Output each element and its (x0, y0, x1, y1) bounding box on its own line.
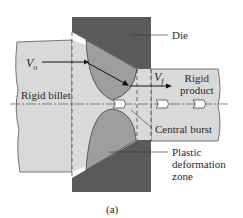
rigid-billet-label: Rigid billet (21, 89, 71, 101)
extrusion-diagram: Die Vo Vf Rigid product Rigid billet Cen… (0, 0, 243, 218)
rigid-product-line1: Rigid (180, 72, 214, 84)
plastic-line1: Plastic (172, 146, 226, 158)
rigid-product-label: Rigid product (180, 72, 214, 96)
v-f-sub: f (161, 77, 163, 86)
plastic-line2: deformation (172, 158, 226, 170)
central-burst-label: Central burst (155, 123, 212, 135)
central-burst-1 (113, 100, 126, 108)
rigid-product-line2: product (180, 84, 214, 96)
die-label: Die (172, 29, 188, 41)
plastic-line3: zone (172, 170, 226, 182)
central-burst-3 (193, 100, 206, 108)
v-o-sub: o (33, 63, 37, 72)
central-burst-2 (156, 100, 169, 108)
rigid-billet-shape (16, 40, 72, 172)
plastic-zone-label: Plastic deformation zone (172, 146, 226, 182)
diagram-graphic (0, 0, 243, 218)
v-f-label: Vf (154, 71, 164, 88)
figure-caption: (a) (106, 203, 118, 215)
v-o-label: Vo (26, 57, 37, 74)
